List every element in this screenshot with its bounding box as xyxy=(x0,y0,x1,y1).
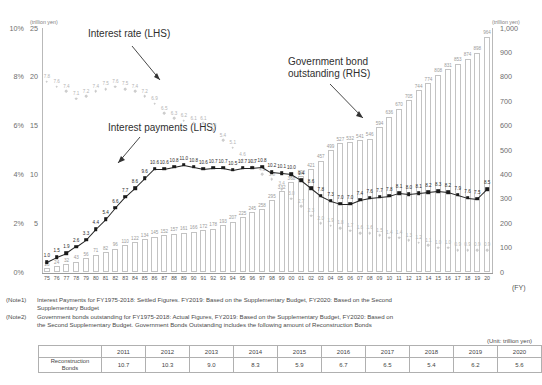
annotation-interest-rate: Interest rate (LHS) xyxy=(88,28,170,39)
bond-bar-value: 207 xyxy=(229,215,237,220)
table-column-header: 2011 xyxy=(102,346,146,358)
interest-payments-value: 7.8 xyxy=(318,187,324,192)
interest-rate-point xyxy=(231,146,234,149)
x-axis-tick: 10 xyxy=(386,275,392,281)
bond-bar xyxy=(298,176,304,272)
interest-payments-point xyxy=(260,165,264,169)
interest-payments-point xyxy=(436,189,440,193)
x-axis-tick: 20 xyxy=(484,275,490,281)
bond-bar-value: 122 xyxy=(131,236,139,241)
interest-payments-point xyxy=(153,167,157,171)
x-axis-tick: 12 xyxy=(406,275,412,281)
annotation-interest-payments: Interest payments (LHS) xyxy=(108,122,216,133)
bond-bar-value: 853 xyxy=(454,57,462,62)
x-axis-tick: 16 xyxy=(445,275,451,281)
bond-bar-value: 898 xyxy=(473,46,481,51)
interest-payments-point xyxy=(319,194,323,198)
table-cell: 8.3 xyxy=(234,358,278,373)
interest-payments-value: 10.7 xyxy=(238,159,247,164)
interest-payments-point xyxy=(241,166,245,170)
interest-payments-value: 7.6 xyxy=(367,189,373,194)
bond-bar xyxy=(328,150,334,272)
interest-rate-point xyxy=(95,90,98,93)
reconstruction-bonds-table: 2011201220132014201520162017201820192020… xyxy=(38,345,542,373)
interest-payments-point xyxy=(143,177,147,181)
interest-rate-point xyxy=(437,246,440,249)
interest-payments-point xyxy=(251,166,255,170)
interest-payments-value: 9.6 xyxy=(142,169,148,174)
interest-payments-point xyxy=(211,166,215,170)
interest-payments-point xyxy=(202,167,206,171)
interest-payments-value: 10.8 xyxy=(170,158,179,163)
interest-payments-point xyxy=(427,190,431,194)
table-column-header: 2014 xyxy=(234,346,278,358)
x-axis-tick: 91 xyxy=(201,275,207,281)
x-axis-tick: 18 xyxy=(465,275,471,281)
bond-bar xyxy=(112,249,118,272)
note-1: (Note1) Interest Payments for FY1975-201… xyxy=(6,296,536,304)
table-cell: 6.2 xyxy=(454,358,498,373)
interest-rate-point xyxy=(456,249,459,252)
interest-payments-value: 10.7 xyxy=(248,159,257,164)
x-axis-tick: 97 xyxy=(259,275,265,281)
left-axis-value-tick: 15 xyxy=(24,121,38,130)
interest-rate-point xyxy=(280,188,283,191)
interest-rate-value: 7.4 xyxy=(63,84,69,89)
interest-payments-value: 1.5 xyxy=(53,248,59,253)
interest-payments-value: 8.2 xyxy=(445,183,451,188)
interest-payments-value: 7.8 xyxy=(386,187,392,192)
x-axis-tick: 76 xyxy=(54,275,60,281)
bond-bar xyxy=(347,142,353,272)
interest-rate-value: 0.9 xyxy=(474,242,480,247)
interest-rate-value: 1.0 xyxy=(445,240,451,245)
interest-rate-point xyxy=(85,95,88,98)
interest-payments-point xyxy=(162,167,166,171)
interest-rate-value: 3.0 xyxy=(288,191,294,196)
interest-rate-value: 0.9 xyxy=(455,242,461,247)
interest-rate-value: 1.8 xyxy=(337,220,343,225)
x-axis-tick: 19 xyxy=(474,275,480,281)
bond-bar xyxy=(249,212,255,272)
interest-payments-value: 3.3 xyxy=(83,231,89,236)
interest-payments-value: 9.4 xyxy=(298,171,304,176)
bond-bar xyxy=(269,200,275,272)
bond-bar xyxy=(367,139,373,272)
interest-payments-point xyxy=(45,260,49,264)
bond-bar xyxy=(73,262,79,272)
x-axis-tick: 75 xyxy=(44,275,50,281)
interest-rate-value: 7.2 xyxy=(83,89,89,94)
bond-bar-value: 499 xyxy=(327,144,335,149)
interest-rate-point xyxy=(261,173,264,176)
interest-payments-point xyxy=(397,191,401,195)
interest-rate-point xyxy=(134,90,137,93)
bond-bar-value: 152 xyxy=(160,229,168,234)
interest-payments-value: 10.8 xyxy=(258,158,267,163)
bond-bar xyxy=(259,209,265,272)
interest-rate-value: 7.1 xyxy=(73,91,79,96)
table-cell: 5.6 xyxy=(498,358,542,373)
interest-rate-value: 6.3 xyxy=(171,111,177,116)
interest-rate-value: 1.2 xyxy=(415,235,421,240)
interest-rate-point xyxy=(378,234,381,237)
x-axis-tick: 02 xyxy=(308,275,314,281)
bond-bar xyxy=(220,225,226,272)
bond-bar-value: 594 xyxy=(376,121,384,126)
interest-payments-point xyxy=(290,173,294,177)
interest-payments-value: 8.6 xyxy=(132,179,138,184)
interest-payments-point xyxy=(280,172,284,176)
interest-rate-point xyxy=(75,97,78,100)
bond-bar xyxy=(230,222,236,273)
interest-payments-point xyxy=(270,171,274,175)
interest-payments-value: 7.3 xyxy=(327,192,333,197)
interest-payments-point xyxy=(368,196,372,200)
left-axis-percent-tick: 4% xyxy=(2,170,24,179)
interest-payments-point xyxy=(339,202,343,206)
interest-rate-value: 1.9 xyxy=(327,218,333,223)
interest-rate-point xyxy=(310,215,313,218)
interest-payments-point xyxy=(94,227,98,231)
x-axis-tick: 82 xyxy=(112,275,118,281)
interest-payments-value: 10.0 xyxy=(287,165,296,170)
interest-rate-value: 1.6 xyxy=(367,225,373,230)
bond-bar-value: 96 xyxy=(113,242,118,247)
bond-bar xyxy=(103,252,109,272)
